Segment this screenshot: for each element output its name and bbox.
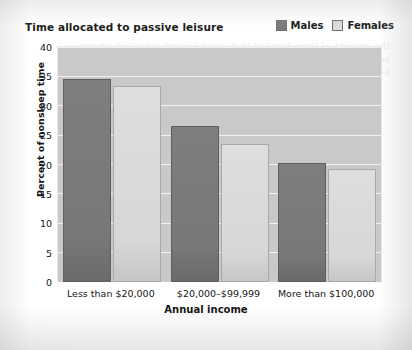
chart-legend: Males Females [276,20,394,31]
x-tick-label-3: More than $100,000 [278,288,375,299]
bar-females-group-3 [328,169,376,282]
bar-females-group-2 [221,144,269,282]
x-tick-label-1: Less than $20,000 [67,288,155,299]
bars-group [58,47,381,282]
y-tick-label-0: 0 [46,277,52,288]
y-axis-title: Percent of nonsleep time [35,30,46,230]
bar-males-group-2 [171,126,219,282]
legend-label-females: Females [347,20,394,31]
bar-males-group-3 [278,163,326,282]
legend-item-females: Females [332,20,394,31]
bar-males-group-1 [63,79,111,282]
legend-swatch-females-icon [332,20,343,31]
chart-title: Time allocated to passive leisure [25,21,223,33]
legend-label-males: Males [291,20,324,31]
legend-item-males: Males [276,20,324,31]
plot-area: 0510152025303540 [57,46,382,283]
legend-swatch-males-icon [276,20,287,31]
x-axis-title: Annual income [0,304,412,315]
chart-page: the amount of time devoted to passive le… [0,0,412,350]
x-tick-label-2: $20,000–$99,999 [177,288,260,299]
bar-females-group-1 [113,86,161,282]
y-tick-label-5: 5 [46,247,52,258]
